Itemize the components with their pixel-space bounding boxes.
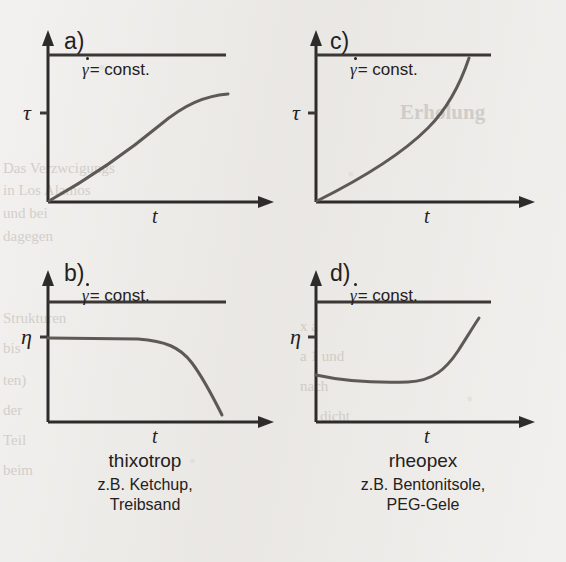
panel-a-letter: a) (64, 28, 84, 55)
panel-b-letter: b) (64, 260, 84, 287)
panel-c-x-axis-arrowhead (519, 196, 535, 208)
panel-d-y-axis-arrowhead (310, 270, 322, 286)
panel-a-plot (0, 0, 283, 230)
panel-d-x-axis-label: t (424, 425, 430, 448)
caption-right-examples-line2: PEG-Gele (308, 495, 538, 515)
panel-b-const-equals: = const. (90, 286, 150, 305)
panel-b-x-axis-arrowhead (258, 416, 274, 428)
panel-d-const-label: γ= const. (350, 286, 418, 306)
caption-left-examples-line1: z.B. Ketchup, (30, 475, 260, 495)
caption-left: thixotrop z.B. Ketchup, Treibsand (30, 450, 260, 516)
panel-b-plot (0, 255, 283, 455)
rheology-figure: a) τ t γ= const. c) τ t γ= const. b) η t… (0, 0, 566, 562)
panel-d-curve (316, 318, 479, 382)
panel-a-x-axis-label: t (152, 205, 158, 228)
caption-left-title: thixotrop (30, 450, 260, 472)
panel-d-x-axis-arrowhead (519, 416, 535, 428)
panel-c-const-label: γ= const. (350, 60, 418, 80)
panel-c-letter: c) (330, 28, 349, 55)
panel-b-y-axis-label: η (21, 324, 32, 350)
caption-right-examples-line1: z.B. Bentonitsole, (308, 475, 538, 495)
panel-c-y-axis-label: τ (292, 100, 300, 126)
caption-right: rheopex z.B. Bentonitsole, PEG-Gele (308, 450, 538, 516)
panel-b-x-axis-label: t (152, 425, 158, 448)
panel-a-y-axis-arrowhead (42, 30, 54, 46)
panel-d-letter: d) (330, 260, 350, 287)
panel-d-gamma-dot-symbol: γ (350, 286, 358, 305)
panel-b-gamma-dot-symbol: γ (82, 286, 90, 305)
panel-c-plot (283, 0, 566, 230)
panel-c-gamma-dot-symbol: γ (350, 60, 358, 79)
panel-a-const-label: γ= const. (82, 60, 150, 80)
panel-b-const-label: γ= const. (82, 286, 150, 306)
panel-b-y-axis-arrowhead (42, 270, 54, 286)
panel-d-const-equals: = const. (358, 286, 418, 305)
panel-d-y-axis-label: η (290, 324, 301, 350)
panel-a-y-axis-label: τ (23, 100, 31, 126)
panel-c-x-axis-label: t (424, 205, 430, 228)
panel-a-gamma-dot-symbol: γ (82, 60, 90, 79)
panel-a-const-equals: = const. (90, 60, 150, 79)
panel-a-curve (49, 94, 228, 201)
caption-left-examples-line2: Treibsand (30, 495, 260, 515)
caption-right-title: rheopex (308, 450, 538, 472)
panel-a-x-axis-arrowhead (258, 196, 274, 208)
panel-c-y-axis-arrowhead (310, 30, 322, 46)
panel-c-const-equals: = const. (358, 60, 418, 79)
panel-b-curve (48, 338, 222, 415)
